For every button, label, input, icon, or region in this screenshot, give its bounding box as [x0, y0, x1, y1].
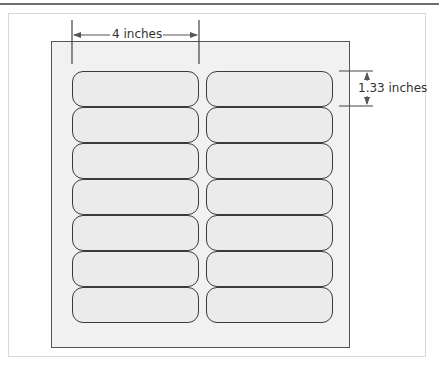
label-cell [72, 71, 199, 107]
label-cell [72, 143, 199, 179]
label-cell [72, 287, 199, 323]
width-dimension-label: 4 inches [111, 27, 163, 41]
label-cell [206, 215, 333, 251]
label-cell [72, 179, 199, 215]
label-cell [72, 107, 199, 143]
label-cell [206, 107, 333, 143]
label-cell [72, 251, 199, 287]
top-rule [0, 3, 439, 5]
label-cell [206, 71, 333, 107]
label-cell [206, 143, 333, 179]
label-cell [206, 251, 333, 287]
label-cell [72, 215, 199, 251]
height-dimension-label: 1.33 inches [357, 81, 428, 95]
label-cell [206, 179, 333, 215]
label-cell [206, 287, 333, 323]
